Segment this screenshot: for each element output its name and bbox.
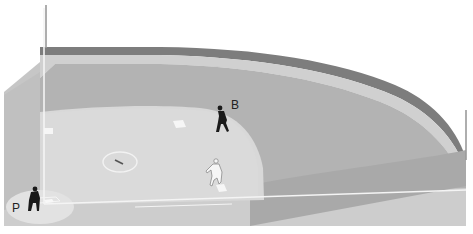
- label-p: P: [12, 202, 20, 214]
- baseball-field-diagram: [0, 0, 473, 234]
- bottom-margin: [0, 226, 473, 234]
- label-b: B: [231, 99, 239, 111]
- third-base: [44, 128, 53, 134]
